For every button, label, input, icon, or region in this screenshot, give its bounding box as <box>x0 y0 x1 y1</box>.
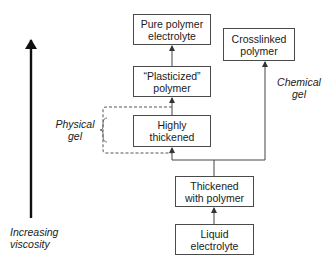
node-text-line: Pure polymer <box>141 18 203 30</box>
chemical-gel-label: Chemical gel <box>275 76 323 100</box>
physical-gel-label-line: gel <box>54 130 96 142</box>
node-text-line: electrolyte <box>141 30 203 42</box>
node-text-line: “Plasticized” <box>143 70 200 82</box>
physical-gel-label-line: Physical <box>54 118 96 130</box>
node-text-line: Liquid <box>191 228 239 240</box>
chemical-gel-label-line: gel <box>275 88 323 100</box>
node-text-line: electrolyte <box>191 240 239 252</box>
node-liquid-electrolyte: Liquidelectrolyte <box>175 224 254 255</box>
node-text-line: Highly <box>150 119 195 131</box>
node-crosslinked-polymer: Crosslinkedpolymer <box>223 28 295 61</box>
physical-gel-label: Physical gel <box>54 118 96 142</box>
viscosity-axis-label: Increasing viscosity <box>10 226 58 250</box>
node-text-line: Crosslinked <box>232 33 287 45</box>
node-text-line: polymer <box>232 45 287 57</box>
node-highly-thickened: Highlythickened <box>133 115 211 147</box>
viscosity-axis-label-line: viscosity <box>10 238 58 250</box>
node-text-line: thickened <box>150 131 195 143</box>
chemical-gel-label-line: Chemical <box>275 76 323 88</box>
node-thickened-with-polymer: Thickenedwith polymer <box>175 176 254 207</box>
node-plasticized-polymer: “Plasticized”polymer <box>133 66 211 97</box>
node-text-line: with polymer <box>185 192 244 204</box>
node-text-line: polymer <box>143 82 200 94</box>
viscosity-axis-label-line: Increasing <box>10 226 58 238</box>
node-pure-polymer-electrolyte: Pure polymerelectrolyte <box>133 14 211 45</box>
node-text-line: Thickened <box>185 180 244 192</box>
